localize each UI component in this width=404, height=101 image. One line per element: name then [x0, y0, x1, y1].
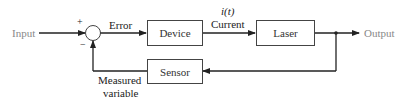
- input-label: Input: [12, 28, 35, 39]
- error-label: Error: [109, 20, 132, 31]
- minus-sign: −: [80, 40, 86, 50]
- laser-label: Laser: [273, 27, 297, 39]
- current-label: Current: [211, 19, 245, 30]
- device-block: Device: [147, 20, 203, 46]
- connector-lines: [0, 0, 404, 101]
- plus-sign: +: [77, 17, 83, 27]
- summing-junction: [86, 26, 101, 41]
- measured-label-line2: variable: [103, 88, 138, 99]
- laser-block: Laser: [256, 20, 315, 46]
- measured-label-line1: Measured: [98, 75, 141, 86]
- output-label: Output: [364, 28, 395, 39]
- sensor-label: Sensor: [160, 66, 190, 78]
- current-symbol: i(t): [221, 6, 234, 17]
- block-diagram: Input + − Error Device i(t) Current Lase…: [0, 0, 404, 101]
- sensor-block: Sensor: [147, 59, 203, 84]
- device-label: Device: [159, 27, 190, 39]
